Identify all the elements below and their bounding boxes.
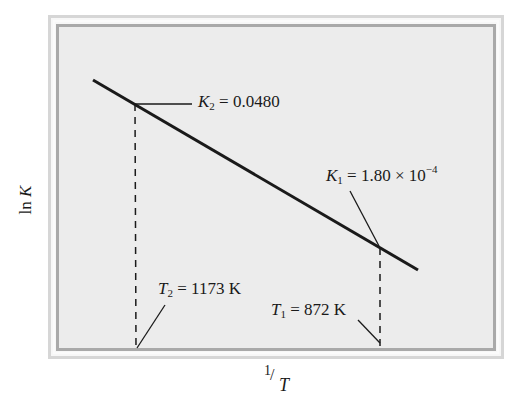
y-axis-label: ln K [16,170,36,230]
t2-value: = 1173 K [173,279,241,298]
annotation-t2: T2 = 1173 K [158,279,241,299]
dashed-guide-t2 [135,104,136,348]
k1-value: = 1.80 × 10 [343,166,426,185]
leader-t2 [137,305,165,348]
annotation-k2: K2 = 0.0480 [198,92,280,112]
t1-value: = 872 K [286,300,346,319]
y-axis-label-var: K [16,186,35,197]
leader-t1 [358,320,380,343]
y-axis-label-ln: ln [16,197,35,214]
x-axis-label-denominator: T [279,375,289,396]
plot-lines [0,0,516,418]
x-axis-label-slash: / [270,366,274,384]
k2-value: = 0.0480 [215,92,280,111]
annotation-t1: T1 = 872 K [271,300,346,320]
k2-var: K [198,92,209,111]
k1-exponent: −4 [426,163,438,175]
annotation-k1: K1 = 1.80 × 10−4 [326,163,438,186]
k1-var: K [326,166,337,185]
